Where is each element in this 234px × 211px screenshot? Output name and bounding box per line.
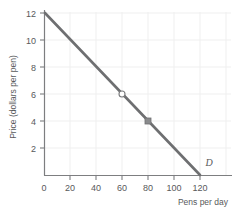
- xtick-label-20: 20: [65, 183, 75, 193]
- ytick-label-10: 10: [26, 36, 36, 46]
- xtick-label-80: 80: [143, 183, 153, 193]
- demand-curve-chart: 12 10 8 6 4 2 0 20 40 60 80 100 120 Pric…: [0, 0, 234, 211]
- point-open-circle: [119, 91, 125, 97]
- chart-figure: 12 10 8 6 4 2 0 20 40 60 80 100 120 Pric…: [0, 0, 234, 211]
- ytick-label-2: 2: [31, 144, 36, 154]
- demand-curve-label: D: [204, 157, 213, 168]
- x-axis-title: Pens per day: [178, 197, 229, 207]
- point-filled-square: [145, 118, 151, 124]
- xtick-label-0: 0: [41, 183, 46, 193]
- y-axis-title: Price (dollars per pen): [8, 55, 18, 139]
- ytick-label-12: 12: [26, 9, 36, 19]
- xtick-label-120: 120: [192, 183, 207, 193]
- ytick-label-6: 6: [31, 90, 36, 100]
- xtick-label-60: 60: [117, 183, 127, 193]
- xtick-label-40: 40: [91, 183, 101, 193]
- ytick-label-4: 4: [31, 117, 36, 127]
- xtick-label-100: 100: [166, 183, 181, 193]
- ytick-label-8: 8: [31, 63, 36, 73]
- chart-background: [0, 0, 234, 211]
